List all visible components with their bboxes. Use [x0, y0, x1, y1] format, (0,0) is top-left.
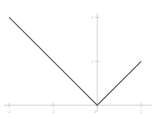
- y-tick-label-2: 2: [91, 16, 93, 20]
- absolute-value-curve: [9, 17, 141, 105]
- x-tick-label-zero: 0: [94, 110, 96, 114]
- x-tick-label-neg1: -1: [52, 110, 55, 114]
- x-tick-label-pos1: 1: [140, 110, 142, 114]
- y-tick-label-1: 1: [91, 60, 93, 64]
- absolute-value-plot: -2 -1 0 1 1 2: [0, 0, 157, 119]
- x-tick-label-neg2: -2: [8, 110, 11, 114]
- plot-canvas: -2 -1 0 1 1 2: [0, 0, 157, 119]
